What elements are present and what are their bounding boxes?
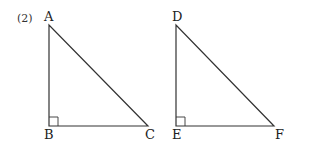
triangle-def	[176, 25, 274, 126]
vertex-label-c: C	[145, 128, 155, 141]
triangle-abc	[49, 25, 148, 126]
vertex-label-d: D	[172, 10, 182, 23]
vertex-label-e: E	[172, 128, 182, 141]
vertex-label-f: F	[275, 128, 284, 141]
vertex-label-a: A	[44, 10, 53, 23]
vertex-label-b: B	[44, 128, 54, 141]
